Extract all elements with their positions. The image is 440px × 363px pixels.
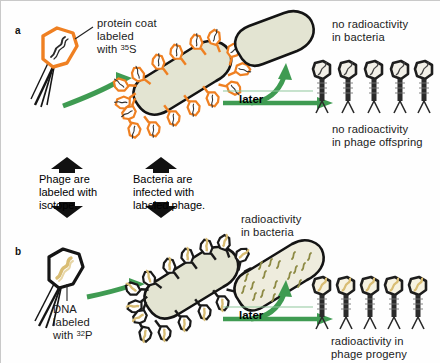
- middle-box-right-text: Bacteria are infected with labeled phage…: [133, 173, 241, 213]
- panel-a-result-top: no radioactivity in bacteria: [332, 18, 408, 43]
- panel-a-clean-bacterium: [235, 11, 314, 66]
- panel-b-caption-with: with: [53, 329, 77, 341]
- panel-b-progeny-phages: [313, 277, 426, 329]
- panel-a-phage-caption: protein coatlabeledwith 35S: [97, 17, 157, 56]
- panel-b-result-bottom: radioactivity in phage progeny: [331, 335, 407, 360]
- panel-a-isotope-mass: 35: [121, 43, 129, 52]
- panel-a-caption-leader: [75, 27, 93, 39]
- middle-box-left-text: Phage are labeled with isotope.: [39, 173, 139, 213]
- panel-b-isotope-element: P: [85, 329, 93, 341]
- panel-a-caption-line2: labeled: [97, 30, 134, 42]
- figure-canvas: a: [0, 0, 440, 363]
- panel-a-later-label: later: [239, 93, 263, 105]
- panel-b-label: b: [15, 246, 21, 257]
- panel-b-caption-line3: with 32P: [53, 329, 93, 341]
- panel-b-result-top: radioactivity in bacteria: [241, 213, 301, 238]
- panel-b-isotope-mass: 32: [77, 329, 85, 338]
- panel-b-caption-line2: labeled: [53, 316, 90, 328]
- panel-b-phage-caption: DNAlabeledwith 32P: [53, 303, 93, 342]
- panel-a-free-phage: [31, 28, 77, 107]
- panel-a-result-bottom: no radioactivity in phage offspring: [332, 123, 423, 148]
- panel-a-caption-line1: protein coat: [97, 17, 157, 29]
- panel-b-later-label: later: [239, 309, 263, 321]
- panel-a-progeny-phages: [339, 61, 432, 113]
- panel-a-caption-line3: with 35S: [97, 43, 137, 55]
- panel-a-isotope-element: S: [129, 43, 137, 55]
- panel-b-caption-line1: DNA: [53, 303, 77, 315]
- panel-a-caption-with: with: [97, 43, 121, 55]
